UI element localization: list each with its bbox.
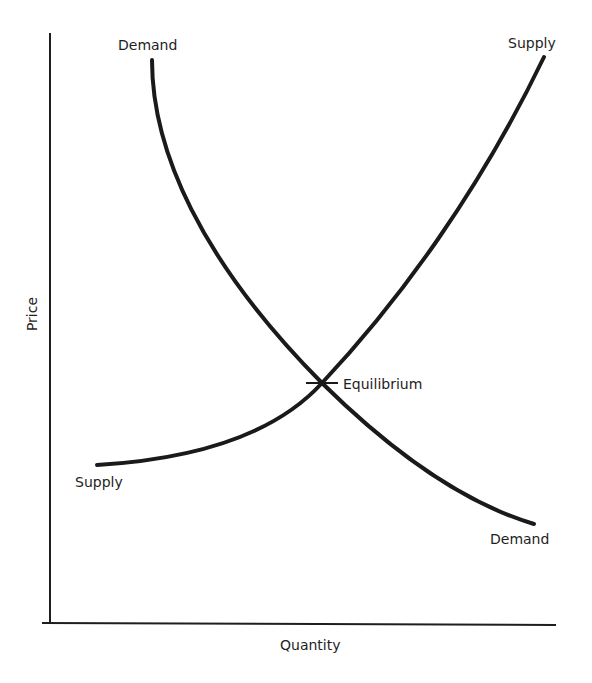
equilibrium-label: Equilibrium (343, 377, 422, 391)
supply-label-bottom: Supply (75, 475, 123, 489)
demand-curve (152, 60, 534, 524)
y-axis-label: Price (25, 297, 39, 331)
demand-label-bottom: Demand (490, 532, 549, 546)
demand-label-top: Demand (118, 38, 177, 52)
x-axis (42, 623, 556, 625)
supply-label-top: Supply (508, 36, 556, 50)
supply-demand-diagram (0, 0, 592, 683)
x-axis-label: Quantity (280, 638, 341, 652)
supply-curve (97, 57, 544, 465)
